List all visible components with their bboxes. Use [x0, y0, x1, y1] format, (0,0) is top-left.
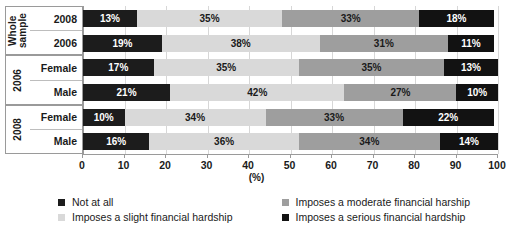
bar-segment: 13% [83, 10, 137, 27]
x-tick-mark [414, 154, 415, 158]
category-row-label: Female [30, 56, 82, 79]
category-axis: Whole sample200820062006FemaleMale2008Fe… [0, 6, 82, 154]
bar-segment: 35% [154, 59, 299, 76]
category-group: 2008FemaleMale [5, 105, 82, 154]
category-group-label-text: Whole sample [8, 13, 28, 48]
category-group-label: 2006 [6, 56, 30, 103]
x-axis-ticks: 0102030405060708090100 [82, 154, 497, 174]
category-row-label: Male [30, 80, 82, 104]
bar-segment: 34% [299, 133, 440, 150]
chart-legend: Not at allImposes a moderate financial h… [0, 196, 505, 223]
bar-segment: 14% [440, 133, 498, 150]
bar-segment: 35% [299, 59, 444, 76]
bar-segment: 18% [419, 10, 494, 27]
bar-segment: 10% [456, 84, 498, 101]
legend-item: Not at all [58, 196, 282, 208]
bar-segment: 10% [83, 109, 125, 126]
bar-segment: 34% [125, 109, 266, 126]
x-tick-label: 60 [325, 159, 337, 171]
bar-segment: 33% [266, 109, 403, 126]
gridline [498, 6, 499, 154]
x-tick-label: 0 [79, 159, 85, 171]
x-tick-mark [165, 154, 166, 158]
category-group-label-text: 2006 [13, 69, 23, 92]
bar-segment: 17% [83, 59, 154, 76]
legend-label: Imposes a slight financial hardship [72, 211, 233, 223]
category-row-label: 2006 [30, 30, 82, 54]
legend-swatch-icon [282, 199, 289, 206]
x-axis-unit-label: (%) [0, 172, 505, 183]
x-tick-label: 10 [118, 159, 130, 171]
bar-segment: 22% [403, 109, 494, 126]
x-tick-mark [207, 154, 208, 158]
stacked-bar: 10%34%33%22% [83, 109, 498, 126]
legend-swatch-icon [282, 214, 289, 221]
bar-row: 21%42%27%10% [83, 80, 498, 105]
category-group: 2006FemaleMale [5, 55, 82, 104]
legend-item: Imposes a serious financial hardship [282, 211, 506, 223]
category-row-label: 2008 [30, 7, 82, 30]
x-tick-label: 20 [159, 159, 171, 171]
x-tick-mark [290, 154, 291, 158]
stacked-bar: 13%35%33%18% [83, 10, 498, 27]
x-tick-mark [373, 154, 374, 158]
legend-label: Not at all [72, 196, 113, 208]
category-group-label: Whole sample [6, 7, 30, 54]
bar-rows: 13%35%33%18%19%38%31%11%17%35%35%13%21%4… [83, 6, 498, 154]
bar-segment: 31% [320, 35, 449, 52]
legend-swatch-icon [58, 214, 65, 221]
bar-segment: 21% [83, 84, 170, 101]
stacked-bar: 16%36%34%14% [83, 133, 498, 150]
category-group-label: 2008 [6, 106, 30, 153]
bar-segment: 36% [149, 133, 298, 150]
plot-area: 13%35%33%18%19%38%31%11%17%35%35%13%21%4… [82, 6, 498, 154]
bar-segment: 27% [344, 84, 456, 101]
stacked-bar: 17%35%35%13% [83, 59, 498, 76]
legend-swatch-icon [58, 199, 65, 206]
x-tick-mark [456, 154, 457, 158]
legend-label: Imposes a serious financial hardship [296, 211, 466, 223]
bar-segment: 38% [162, 35, 320, 52]
bar-segment: 33% [282, 10, 419, 27]
legend-item: Imposes a slight financial hardship [58, 211, 282, 223]
legend-item: Imposes a moderate financial harship [282, 196, 506, 208]
x-tick-mark [248, 154, 249, 158]
category-row-label: Female [30, 106, 82, 129]
category-group-label-text: 2008 [13, 118, 23, 141]
bar-row: 16%36%34%14% [83, 129, 498, 154]
stacked-bar: 21%42%27%10% [83, 84, 498, 101]
x-tick-label: 80 [408, 159, 420, 171]
bar-segment: 16% [83, 133, 149, 150]
x-tick-label: 50 [284, 159, 296, 171]
bar-row: 17%35%35%13% [83, 55, 498, 80]
stacked-bar: 19%38%31%11% [83, 35, 498, 52]
category-row-label: Male [30, 129, 82, 153]
bar-segment: 19% [83, 35, 162, 52]
x-tick-label: 30 [201, 159, 213, 171]
legend-label: Imposes a moderate financial harship [296, 196, 471, 208]
x-tick-mark [497, 154, 498, 158]
bar-row: 13%35%33%18% [83, 6, 498, 31]
category-group: Whole sample20082006 [5, 6, 82, 55]
x-tick-label: 100 [488, 159, 506, 171]
bar-segment: 35% [137, 10, 282, 27]
x-tick-label: 40 [242, 159, 254, 171]
bar-segment: 13% [444, 59, 498, 76]
bar-row: 10%34%33%22% [83, 105, 498, 130]
x-tick-label: 90 [450, 159, 462, 171]
bar-segment: 42% [170, 84, 344, 101]
bar-segment: 11% [448, 35, 494, 52]
bar-row: 19%38%31%11% [83, 31, 498, 56]
x-tick-mark [82, 154, 83, 158]
x-tick-mark [331, 154, 332, 158]
x-tick-mark [124, 154, 125, 158]
x-tick-label: 70 [367, 159, 379, 171]
